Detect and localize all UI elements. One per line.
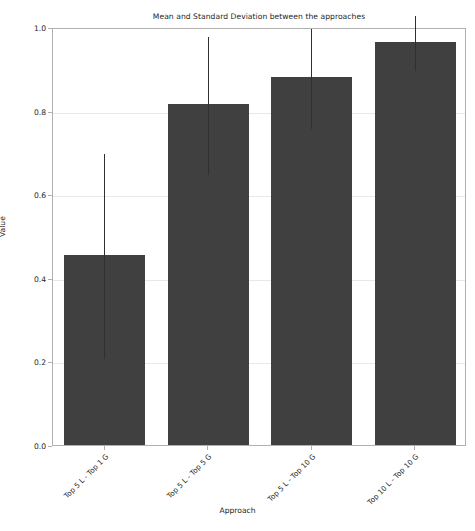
- error-bar: [208, 37, 209, 175]
- chart-figure: Mean and Standard Deviation between the …: [0, 0, 475, 531]
- x-tick-label: Top 5 L - Top 5 G: [66, 452, 214, 531]
- x-tick-label: Top 5 L - Top 10 G: [169, 452, 317, 531]
- bar: [375, 42, 456, 445]
- y-tick-mark: [48, 195, 52, 196]
- y-tick-label: 0.6: [6, 191, 46, 200]
- bar: [271, 77, 352, 445]
- y-tick-mark: [48, 446, 52, 447]
- x-tick-label: Top 5 L - Top 1 G: [0, 452, 110, 531]
- error-bar: [104, 154, 105, 359]
- chart-title: Mean and Standard Deviation between the …: [52, 12, 466, 21]
- y-tick-label: 0.4: [6, 274, 46, 283]
- plot-area: [52, 28, 466, 446]
- x-tick-mark: [311, 446, 312, 450]
- x-tick-label: Top 10 L - Top 10 G: [273, 452, 421, 531]
- y-tick-label: 1.0: [6, 24, 46, 33]
- y-tick-label: 0.2: [6, 358, 46, 367]
- y-tick-label: 0.8: [6, 107, 46, 116]
- y-tick-mark: [48, 279, 52, 280]
- x-axis-label: Approach: [0, 506, 475, 515]
- y-tick-mark: [48, 28, 52, 29]
- y-axis-label: Value: [0, 216, 7, 237]
- error-bar: [415, 16, 416, 70]
- x-tick-mark: [207, 446, 208, 450]
- x-tick-mark: [414, 446, 415, 450]
- error-bar: [311, 29, 312, 129]
- y-tick-mark: [48, 362, 52, 363]
- y-tick-label: 0.0: [6, 442, 46, 451]
- x-tick-mark: [104, 446, 105, 450]
- y-tick-mark: [48, 112, 52, 113]
